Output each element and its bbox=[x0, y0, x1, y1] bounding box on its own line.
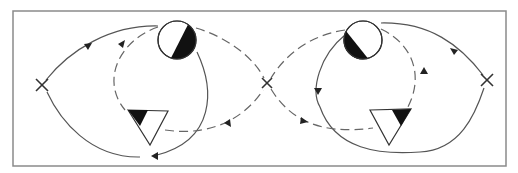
left-solid-path-right bbox=[157, 52, 208, 155]
arrow-icon bbox=[450, 48, 458, 55]
flow-diagram bbox=[0, 0, 518, 173]
left-dashed-path-left bbox=[114, 27, 158, 110]
arrow-icon bbox=[314, 88, 322, 95]
arrow-icon bbox=[224, 119, 231, 127]
right-dashed-path-right bbox=[381, 29, 415, 112]
arrow-icon bbox=[118, 40, 125, 48]
right-dashed-path-left bbox=[271, 30, 345, 78]
center-cross-icon bbox=[262, 78, 272, 88]
arrow-icon bbox=[420, 67, 428, 74]
left-dashed-path-bottom bbox=[165, 90, 263, 131]
right-cross-icon bbox=[481, 74, 493, 86]
left-half-filled-circle-icon bbox=[158, 21, 196, 59]
left-solid-path-top bbox=[46, 26, 158, 80]
arrow-icon bbox=[84, 43, 92, 50]
right-dashed-path-bottom bbox=[271, 89, 373, 130]
arrow-icon bbox=[300, 117, 308, 124]
arrow-icon bbox=[151, 152, 158, 160]
left-dashed-path-top bbox=[196, 28, 264, 78]
right-half-filled-circle-icon bbox=[344, 21, 382, 59]
left-cross-icon bbox=[36, 79, 48, 91]
right-solid-path-top bbox=[381, 23, 483, 75]
left-partial-triangle-icon bbox=[128, 110, 168, 145]
left-solid-path-bottom bbox=[47, 92, 140, 157]
right-solid-path-left bbox=[316, 35, 484, 153]
diagram-frame bbox=[13, 11, 506, 166]
right-partial-triangle-icon bbox=[370, 109, 411, 145]
